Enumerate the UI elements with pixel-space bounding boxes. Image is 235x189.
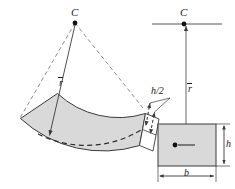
center-point-left: [73, 21, 78, 26]
label-radius-right: r: [188, 84, 192, 94]
figure-canvas: [0, 0, 235, 189]
curved-beam-figure: C r h/2 C r h b: [0, 0, 235, 189]
label-width: b: [184, 168, 189, 178]
label-h-half: h/2: [151, 86, 164, 96]
construction-lines-left: [20, 23, 143, 118]
label-radius-left-text: r: [59, 78, 63, 88]
label-center-left: C: [71, 7, 78, 18]
curved-beam-body: [21, 94, 146, 151]
label-radius-right-text: r: [188, 84, 192, 94]
label-center-right: C: [180, 7, 187, 18]
label-height: h: [226, 139, 231, 149]
center-point-right: [182, 22, 187, 27]
label-radius-left: r: [59, 78, 63, 88]
